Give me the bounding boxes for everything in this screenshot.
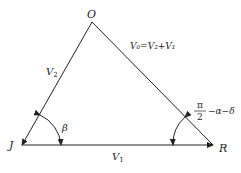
vertex-label-o: O [87,8,96,21]
vertex-label-j: J [7,139,14,152]
triangle-diagram: O J R V2 V1 V₀=V₂+V₁ β π 2 −α−δ [0,0,241,173]
angle-label-r: π 2 −α−δ [194,100,235,122]
edge-label-v2: V2 [46,66,58,79]
angle-arc-j [40,115,61,145]
vertex-label-r: R [218,142,227,155]
edge-label-v0: V₀=V₂+V₁ [130,41,175,51]
svg-text:π: π [197,100,203,110]
svg-text:2: 2 [197,112,203,122]
edge-label-v1: V1 [112,151,124,164]
edge-jo [22,22,92,145]
svg-text:−α−δ: −α−δ [208,106,235,116]
angle-label-beta: β [61,122,68,133]
angle-arc-r [173,117,185,145]
